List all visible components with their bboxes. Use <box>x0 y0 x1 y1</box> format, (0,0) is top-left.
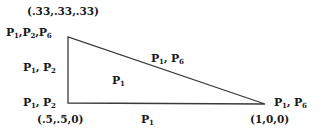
vertex-bottom-right-coordinate: (1,0,0) <box>250 114 289 125</box>
vertex-bottom-right-label: P1, P6 <box>274 97 307 109</box>
interior-label: P1 <box>112 75 125 87</box>
triangle-outline <box>68 37 265 104</box>
vertex-bottom-left-coordinate: (.5,.5,0) <box>37 114 83 125</box>
vertex-bottom-left-label: P1, P2 <box>23 97 56 109</box>
vertex-top-left-coordinate: (.33,.33,.33) <box>27 6 99 17</box>
triangle-diagram: (.33,.33,.33) P1,P2,P6 P1, P2 P1 P1, P6 … <box>0 0 322 130</box>
vertex-top-left-label: P1,P2,P6 <box>6 27 52 39</box>
edge-bottom-label: P1 <box>141 114 154 126</box>
edge-hypotenuse-label: P1, P6 <box>151 53 184 65</box>
edge-left-label: P1, P2 <box>23 62 56 74</box>
